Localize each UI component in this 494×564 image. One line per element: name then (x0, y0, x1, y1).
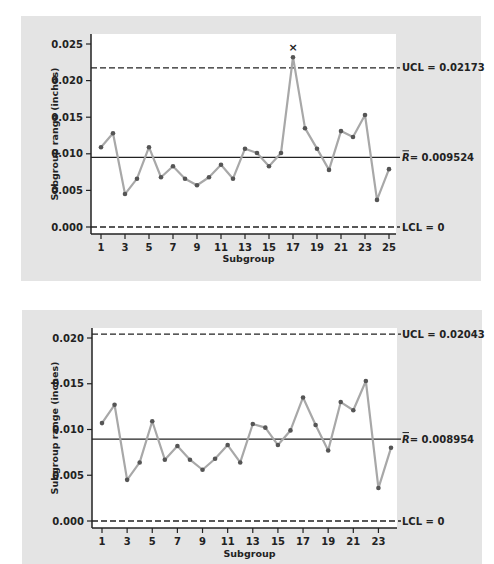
chart2: 0.0000.0050.0100.0150.020135791113151719… (49, 328, 485, 559)
ucl-label: UCL = 0.02043 (402, 329, 485, 340)
chart1: 0.0000.0050.0100.0150.0200.0251357911131… (49, 34, 485, 264)
x-tick-label: 3 (122, 242, 129, 253)
x-tick-label: 13 (246, 536, 260, 547)
y-tick-label: 0.025 (51, 39, 83, 50)
data-point (123, 192, 128, 197)
x-tick-label: 23 (371, 536, 385, 547)
x-tick-label: 1 (98, 242, 105, 253)
x-tick-label: 9 (194, 242, 201, 253)
data-point (279, 151, 284, 156)
data-point (188, 457, 193, 462)
data-point (195, 183, 200, 188)
x-tick-label: 7 (170, 242, 177, 253)
plot-area (91, 34, 396, 234)
data-point (326, 448, 331, 453)
data-point (267, 164, 272, 169)
x-tick-label: 23 (358, 242, 372, 253)
data-point (225, 443, 230, 448)
x-tick-label: 21 (334, 242, 348, 253)
data-point (147, 145, 152, 150)
lcl-label: LCL = 0 (402, 222, 444, 233)
data-point (125, 478, 130, 483)
data-point (207, 175, 212, 180)
data-point (364, 379, 369, 384)
x-axis-title: Subgroup (223, 253, 275, 264)
x-tick-label: 11 (221, 536, 235, 547)
data-point (100, 421, 105, 426)
data-point (339, 129, 344, 134)
y-axis-title: Subgroup range (inches) (49, 68, 60, 201)
charts-canvas: 0.0000.0050.0100.0150.0200.0251357911131… (0, 0, 494, 564)
x-tick-label: 19 (321, 536, 335, 547)
plot-area (92, 328, 397, 528)
x-tick-label: 13 (238, 242, 252, 253)
x-tick-label: 5 (146, 242, 153, 253)
x-tick-label: 19 (310, 242, 324, 253)
data-point (327, 168, 332, 173)
x-tick-label: 5 (149, 536, 156, 547)
data-point (376, 486, 381, 491)
x-tick-label: 11 (214, 242, 228, 253)
data-point (219, 162, 224, 167)
x-tick-label: 1 (99, 536, 106, 547)
data-point (389, 446, 394, 451)
x-tick-label: 3 (124, 536, 131, 547)
data-point (250, 422, 255, 427)
data-point (255, 151, 260, 156)
data-point (315, 146, 320, 151)
x-tick-label: 21 (346, 536, 360, 547)
x-tick-label: 15 (262, 242, 276, 253)
data-point (276, 443, 281, 448)
data-point (291, 55, 296, 60)
data-point (387, 167, 392, 172)
y-tick-label: 0.000 (52, 516, 84, 527)
x-tick-label: 7 (174, 536, 181, 547)
data-point (213, 456, 218, 461)
data-point (303, 126, 308, 131)
x-axis-title: Subgroup (224, 548, 276, 559)
lcl-label: LCL = 0 (402, 516, 444, 527)
data-point (338, 400, 343, 405)
data-point (150, 419, 155, 424)
data-point (288, 428, 293, 433)
x-tick-label: 17 (286, 242, 300, 253)
data-point (111, 131, 116, 136)
data-point (112, 402, 117, 407)
out-of-control-marker: × (288, 41, 297, 54)
data-point (175, 444, 180, 449)
data-point (301, 395, 306, 400)
data-point (375, 198, 380, 203)
data-point (137, 460, 142, 465)
data-point (351, 408, 356, 413)
y-tick-label: 0.000 (51, 222, 83, 233)
x-tick-label: 15 (271, 536, 285, 547)
x-tick-label: 9 (199, 536, 206, 547)
data-point (243, 146, 248, 151)
ucl-label: UCL = 0.02173 (402, 62, 485, 73)
data-point (163, 457, 168, 462)
data-point (135, 176, 140, 181)
data-point (313, 423, 318, 428)
data-point (351, 135, 356, 140)
y-tick-label: 0.020 (52, 333, 84, 344)
data-point (99, 145, 104, 150)
data-point (363, 113, 368, 118)
data-point (200, 467, 205, 472)
x-tick-label: 25 (382, 242, 396, 253)
data-point (159, 175, 164, 180)
data-point (183, 176, 188, 181)
center-label: R= 0.008954 (402, 434, 474, 445)
data-point (263, 425, 268, 430)
data-point (238, 460, 243, 465)
data-point (171, 164, 176, 169)
y-axis-title: Subgroup range (inches) (49, 362, 60, 495)
data-point (231, 176, 236, 181)
center-label: R= 0.009524 (402, 152, 474, 163)
x-tick-label: 17 (296, 536, 310, 547)
